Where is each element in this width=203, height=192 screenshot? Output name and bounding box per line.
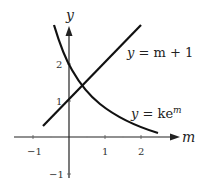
x-tick-1: 1	[102, 146, 108, 157]
x-tick-neg1: −1	[27, 146, 42, 157]
label-exp-equation: y = kem	[130, 105, 182, 121]
x-axis: m −1 1 2	[14, 129, 195, 157]
x-tick-2: 2	[138, 146, 144, 157]
series-line-m-plus-1	[43, 25, 141, 126]
y-tick-neg1: −1	[49, 169, 64, 180]
chart: m −1 1 2 y 2 1 −1 y = m + 1 y = kem	[0, 0, 203, 192]
label-line-equation: y = m + 1	[126, 45, 193, 60]
y-tick-1: 1	[56, 96, 62, 107]
y-axis: y 2 1 −1	[49, 7, 75, 180]
y-axis-label: y	[65, 7, 75, 23]
y-tick-2: 2	[56, 59, 62, 70]
y-axis-arrow-icon	[66, 26, 73, 36]
x-axis-label: m	[182, 129, 195, 145]
x-axis-arrow-icon	[170, 134, 180, 141]
